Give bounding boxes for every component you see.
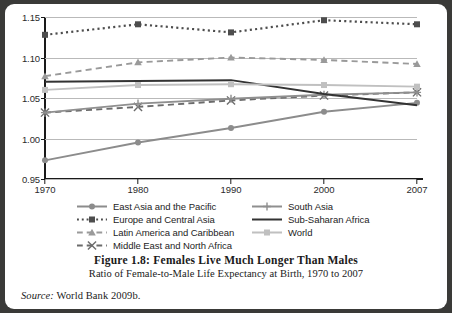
y-axis-tick-label: 1.15 [22, 12, 40, 23]
legend-swatch-icon [77, 227, 107, 238]
legend-label: Europe and Central Asia [113, 214, 215, 225]
data-point-marker [135, 82, 141, 88]
legend-item: Europe and Central Asia [77, 213, 234, 226]
legend-label: Middle East and North Africa [113, 240, 232, 251]
series-lines [45, 17, 417, 179]
legend-item: Latin America and Caribbean [77, 226, 234, 239]
caption-subtitle: Ratio of Female-to-Male Life Expectancy … [5, 268, 447, 279]
x-axis-tick [230, 179, 231, 184]
data-point-marker [228, 29, 234, 35]
data-point-marker [228, 81, 234, 87]
chart-container: 1.151.101.051.000.95 1970198019902000200… [5, 4, 447, 200]
data-point-marker [135, 140, 141, 146]
x-axis-tick-label: 1980 [127, 184, 148, 195]
plot-area: 1.151.101.051.000.95 1970198019902000200… [45, 17, 417, 179]
series-europe-and-central-asia [42, 17, 420, 38]
x-axis-tick [416, 179, 417, 184]
x-axis-tick-label: 2000 [313, 184, 334, 195]
data-point-marker [321, 17, 327, 23]
data-point-marker [135, 21, 141, 27]
series-line [45, 103, 417, 161]
legend-swatch-icon [252, 214, 282, 225]
x-axis-tick-label: 2007 [406, 184, 427, 195]
legend-item: World [252, 226, 369, 239]
x-axis-tick-label: 1990 [220, 184, 241, 195]
y-axis-tick-label: 1.00 [22, 133, 40, 144]
legend-swatch-icon [77, 240, 107, 251]
data-point-marker [42, 32, 48, 38]
figure-page: 1.151.101.051.000.95 1970198019902000200… [0, 0, 452, 313]
data-point-marker [321, 109, 327, 115]
data-point-marker [228, 125, 234, 131]
series-latin-america-and-caribbean [41, 54, 421, 79]
legend-column-right: South AsiaSub-Saharan AfricaWorld [252, 200, 369, 239]
legend-swatch-icon [77, 214, 107, 225]
caption-title: Figure 1.8: Females Live Much Longer Tha… [5, 254, 447, 266]
y-axis-tick-label: 1.05 [22, 93, 40, 104]
chart-legend: East Asia and the PacificEurope and Cent… [5, 200, 447, 254]
data-point-marker [42, 87, 48, 93]
series-south-asia [41, 88, 421, 116]
data-point-marker [414, 84, 420, 90]
legend-swatch-icon [252, 201, 282, 212]
x-axis-tick-label: 1970 [34, 184, 55, 195]
data-point-marker [227, 95, 235, 103]
legend-label: World [288, 227, 312, 238]
x-axis-tick [323, 179, 324, 184]
legend-item: South Asia [252, 200, 369, 213]
legend-swatch-icon [77, 201, 107, 212]
legend-item: Sub-Saharan Africa [252, 213, 369, 226]
y-axis-tick-label: 1.10 [22, 52, 40, 63]
data-point-marker [321, 82, 327, 88]
figure-caption: Figure 1.8: Females Live Much Longer Tha… [5, 254, 447, 279]
legend-column-left: East Asia and the PacificEurope and Cent… [77, 200, 234, 252]
series-world [42, 81, 420, 93]
legend-label: South Asia [288, 201, 333, 212]
legend-item: Middle East and North Africa [77, 239, 234, 252]
source-text: World Bank 2009b. [57, 290, 141, 301]
x-axis-tick [44, 179, 45, 184]
legend-label: East Asia and the Pacific [113, 201, 216, 212]
figure-card: 1.151.101.051.000.95 1970198019902000200… [5, 4, 447, 309]
source-label: Source: [21, 290, 54, 301]
legend-item: East Asia and the Pacific [77, 200, 234, 213]
source-line: Source: World Bank 2009b. [21, 290, 141, 301]
data-point-marker [42, 157, 48, 163]
legend-swatch-icon [252, 227, 282, 238]
y-axis-tick-label: 0.95 [22, 174, 40, 185]
legend-label: Sub-Saharan Africa [288, 214, 369, 225]
data-point-marker [414, 21, 420, 27]
x-axis-tick [137, 179, 138, 184]
legend-label: Latin America and Caribbean [113, 227, 234, 238]
